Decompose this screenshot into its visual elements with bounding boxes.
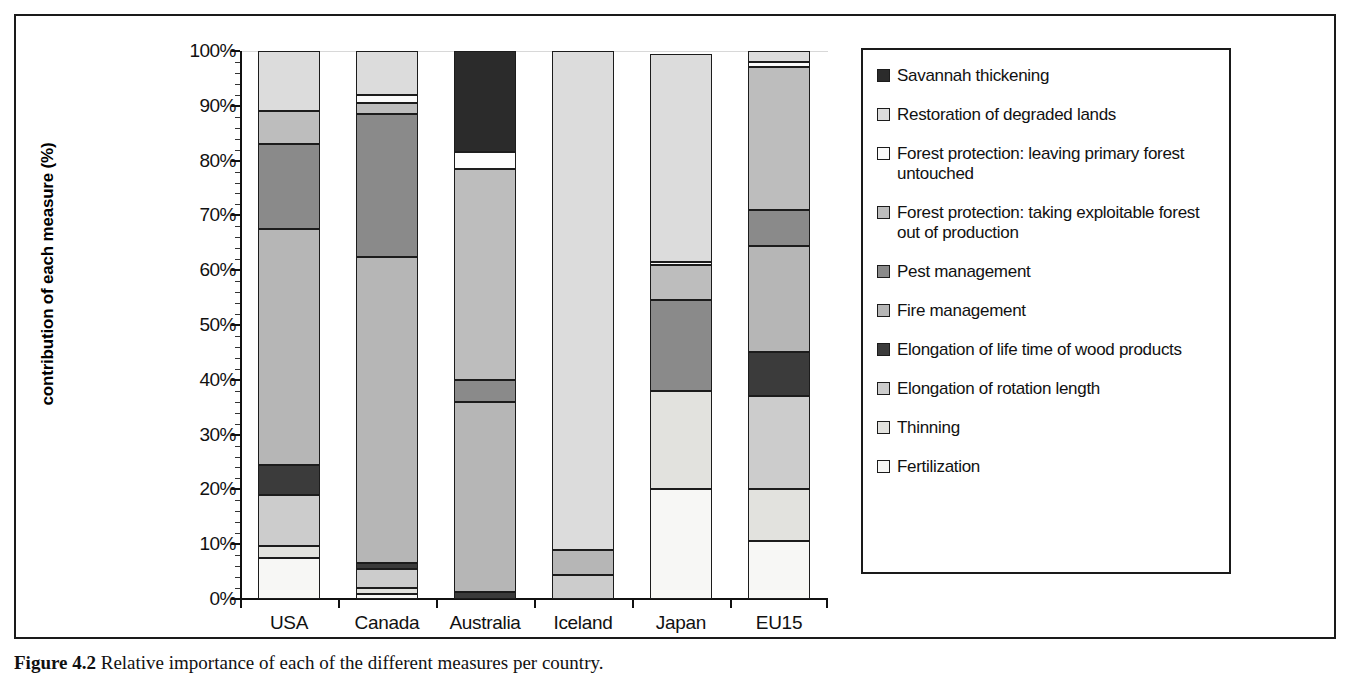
y-tick-label: 90% — [166, 95, 236, 117]
bar-segment[interactable] — [258, 111, 320, 144]
x-tick — [338, 599, 340, 608]
figure-caption-label: Figure 4.2 — [14, 652, 96, 673]
y-major-tick — [231, 160, 240, 162]
y-major-tick — [231, 105, 240, 107]
bar-segment[interactable] — [258, 229, 320, 465]
legend-swatch-icon — [877, 265, 890, 278]
bar-segment[interactable] — [748, 51, 810, 62]
bar-segment[interactable] — [356, 51, 418, 95]
legend-label: Elongation of life time of wood products — [897, 340, 1182, 360]
legend-label: Fertilization — [897, 457, 980, 477]
bar-segment[interactable] — [454, 380, 516, 402]
legend-item[interactable]: Thinning — [877, 418, 1219, 438]
bar-segment[interactable] — [748, 246, 810, 353]
y-major-tick — [231, 434, 240, 436]
bar-segment[interactable] — [258, 558, 320, 599]
figure-caption: Figure 4.2 Relative importance of each o… — [14, 652, 1334, 674]
bar-segment[interactable] — [748, 62, 810, 67]
bar-segment[interactable] — [356, 563, 418, 568]
legend-swatch-icon — [877, 147, 890, 160]
y-axis-title: contribution of each measure (%) — [38, 74, 58, 474]
bar-segment[interactable] — [454, 169, 516, 380]
bar-segment[interactable] — [748, 396, 810, 489]
bar-segment[interactable] — [258, 51, 320, 111]
x-label-eu15: EU15 — [719, 612, 839, 634]
stacked-bar-iceland[interactable] — [552, 51, 614, 599]
y-tick-label: 0% — [166, 588, 236, 610]
x-tick — [730, 599, 732, 608]
bar-segment[interactable] — [454, 592, 516, 599]
legend-label: Pest management — [897, 262, 1030, 282]
y-tick-label: 50% — [166, 314, 236, 336]
bar-segment[interactable] — [552, 575, 614, 599]
bar-segment[interactable] — [258, 546, 320, 558]
bar-segment[interactable] — [454, 51, 516, 152]
x-tick — [826, 599, 828, 608]
y-major-tick — [231, 214, 240, 216]
bar-segment[interactable] — [748, 352, 810, 396]
legend-label: Restoration of degraded lands — [897, 105, 1116, 125]
legend-item[interactable]: Restoration of degraded lands — [877, 105, 1219, 125]
legend-swatch-icon — [877, 69, 890, 82]
legend-swatch-icon — [877, 460, 890, 473]
bar-segment[interactable] — [356, 114, 418, 256]
stacked-bar-japan[interactable] — [650, 51, 712, 599]
legend-label: Forest protection: taking exploitable fo… — [897, 203, 1219, 243]
x-tick — [436, 599, 438, 608]
bar-segment[interactable] — [650, 265, 712, 301]
bar-segment[interactable] — [356, 257, 418, 564]
legend-swatch-icon — [877, 421, 890, 434]
bar-segment[interactable] — [356, 594, 418, 599]
y-major-tick — [231, 379, 240, 381]
bar-segment[interactable] — [258, 495, 320, 546]
y-major-tick — [231, 269, 240, 271]
bar-segment[interactable] — [552, 550, 614, 576]
bar-segment[interactable] — [748, 67, 810, 209]
x-tick — [534, 599, 536, 608]
bar-segment[interactable] — [356, 569, 418, 588]
legend-swatch-icon — [877, 304, 890, 317]
legend-item[interactable]: Elongation of life time of wood products — [877, 340, 1219, 360]
legend-item[interactable]: Fertilization — [877, 457, 1219, 477]
y-major-tick — [231, 324, 240, 326]
x-tick — [240, 599, 242, 608]
bar-segment[interactable] — [356, 95, 418, 103]
bar-segment[interactable] — [552, 51, 614, 550]
x-axis-category-labels: USACanadaAustraliaIcelandJapanEU15 — [240, 612, 828, 642]
y-tick-label: 10% — [166, 533, 236, 555]
y-tick-label: 60% — [166, 259, 236, 281]
legend-swatch-icon — [877, 206, 890, 219]
bar-segment[interactable] — [748, 489, 810, 541]
bar-segment[interactable] — [748, 210, 810, 246]
stacked-bar-australia[interactable] — [454, 51, 516, 599]
legend-item[interactable]: Forest protection: leaving primary fores… — [877, 144, 1219, 184]
legend-item[interactable]: Pest management — [877, 262, 1219, 282]
bar-segment[interactable] — [650, 300, 712, 390]
legend-item[interactable]: Savannah thickening — [877, 66, 1219, 86]
legend-label: Thinning — [897, 418, 960, 438]
stacked-bar-eu15[interactable] — [748, 51, 810, 599]
bar-segment[interactable] — [356, 588, 418, 593]
figure-frame: contribution of each measure (%) 0%10%20… — [14, 14, 1336, 639]
bar-segment[interactable] — [356, 103, 418, 114]
bar-segment[interactable] — [454, 402, 516, 592]
legend-item[interactable]: Forest protection: taking exploitable fo… — [877, 203, 1219, 243]
legend-label: Savannah thickening — [897, 66, 1049, 86]
legend-item[interactable]: Fire management — [877, 301, 1219, 321]
legend-item[interactable]: Elongation of rotation length — [877, 379, 1219, 399]
y-tick-label: 70% — [166, 204, 236, 226]
stacked-bar-canada[interactable] — [356, 51, 418, 599]
stacked-bar-usa[interactable] — [258, 51, 320, 599]
legend-swatch-icon — [877, 382, 890, 395]
bar-segment[interactable] — [258, 465, 320, 495]
bar-segment[interactable] — [454, 152, 516, 168]
bar-segment[interactable] — [258, 144, 320, 229]
y-major-tick — [231, 543, 240, 545]
bar-segment[interactable] — [748, 541, 810, 599]
y-tick-label: 30% — [166, 424, 236, 446]
bar-segment[interactable] — [650, 391, 712, 490]
bar-segment[interactable] — [650, 489, 712, 599]
bar-segment[interactable] — [650, 262, 712, 265]
bar-segment[interactable] — [650, 54, 712, 262]
y-axis-tick-labels: 0%10%20%30%40%50%60%70%80%90%100% — [166, 38, 236, 600]
